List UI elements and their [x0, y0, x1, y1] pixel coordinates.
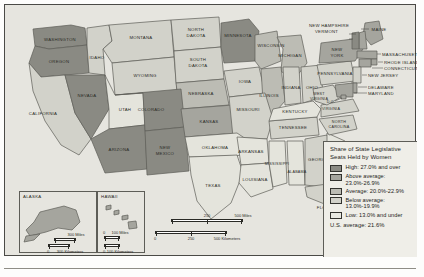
alaska-inset: ALASKA 300 Miles 0 300 Kilometers [19, 191, 97, 253]
legend-swatch-above-average [330, 174, 342, 181]
label-maine: MAINE [372, 27, 387, 32]
legend-row-low[interactable]: Low: 13.0% and under [330, 212, 413, 220]
alaska-scale-km: 0 300 Kilometers [48, 244, 70, 255]
legend-swatch-below-average [330, 197, 342, 204]
legend-us-average: U.S. average: 21.6% [330, 222, 413, 228]
main-scale-miles: 250 500 Miles [171, 213, 243, 222]
alaska-aleutians[interactable] [24, 234, 40, 242]
label-texas: TEXAS [205, 183, 220, 188]
map-legend: Share of State Legislative Seats Held by… [323, 141, 417, 257]
hawaii-km-zero: 0 [103, 249, 105, 254]
legend-swatch-high [330, 165, 342, 172]
legend-label-below-average: Below average: 13.0%-19.9% [346, 197, 414, 210]
alaska-km-zero: 0 [47, 249, 49, 254]
hawaii-scale-km: 0 100 Kilometers [104, 244, 120, 255]
label-colorado: COLORADO [138, 107, 165, 112]
choropleth-map-figure: WASHINGTON OREGON IDAHO MONTANA WYOMING … [0, 0, 424, 277]
main-scale-km: 0 250 500 Kilometers [155, 231, 227, 242]
map-frame: WASHINGTON OREGON IDAHO MONTANA WYOMING … [4, 4, 416, 256]
label-nebraska: NEBRASKA [188, 91, 213, 96]
label-new-york-2: YORK [330, 53, 343, 58]
label-utah: UTAH [119, 107, 131, 112]
label-california: CALIFORNIA [29, 111, 57, 116]
label-maryland: MARYLAND [368, 91, 394, 96]
alaska-scale-miles: 300 Miles [54, 232, 76, 241]
label-west-virginia-2: VIRGINIA [310, 97, 328, 101]
label-missouri: MISSOURI [236, 107, 259, 112]
island-hawaii[interactable] [128, 221, 137, 229]
label-rhode-island: RHODE ISLAND [384, 60, 417, 65]
state-new-jersey[interactable] [353, 67, 361, 83]
label-pennsylvania: PENNSYLVANIA [317, 71, 352, 76]
label-kansas: KANSAS [200, 119, 219, 124]
label-mississippi: MISSISSIPPI [265, 162, 290, 166]
legend-row-above-average[interactable]: Above average: 23.0%-26.9% [330, 173, 413, 186]
figure-bottom-rule [4, 268, 416, 269]
state-connecticut[interactable] [359, 59, 371, 67]
legend-label-above-average: Above average: 23.0%-26.9% [346, 173, 414, 186]
label-massachusetts: MASSACHUSETTS [382, 52, 417, 57]
label-arizona: ARIZONA [109, 147, 130, 152]
label-tennessee: TENNESSEE [279, 125, 307, 130]
label-wisconsin: WISCONSIN [257, 43, 284, 48]
label-alabama: ALABAMA [287, 170, 306, 174]
label-iowa: IOWA [239, 79, 251, 84]
label-ohio: OHIO [306, 85, 318, 90]
label-north-dakota-1: NORTH [188, 27, 204, 32]
label-wyoming: WYOMING [133, 73, 157, 78]
label-illinois: ILLINOIS [259, 93, 279, 98]
label-louisiana: LOUISIANA [242, 177, 267, 182]
label-arkansas: ARKANSAS [238, 149, 263, 154]
label-kentucky: KENTUCKY [282, 109, 307, 114]
alaska-miles-max: 300 Miles [67, 232, 84, 237]
state-massachusetts[interactable] [357, 51, 377, 59]
label-oklahoma: OKLAHOMA [202, 145, 228, 150]
label-nevada: NEVADA [78, 93, 97, 98]
label-vermont: VERMONT [315, 29, 338, 34]
label-new-mexico-2: MEXICO [156, 151, 175, 156]
state-montana[interactable] [103, 20, 174, 63]
state-vermont[interactable] [352, 32, 359, 49]
legend-row-below-average[interactable]: Below average: 13.0%-19.9% [330, 197, 413, 210]
state-dc[interactable] [341, 95, 346, 99]
label-dc: D.C. [327, 100, 335, 104]
label-west-virginia-1: WEST [313, 92, 325, 96]
label-new-hampshire: NEW HAMPSHIRE [309, 23, 349, 28]
label-north-carolina-1: NORTH [332, 120, 346, 124]
legend-label-low: Low: 13.0% and under [346, 212, 403, 219]
label-idaho: IDAHO [90, 55, 105, 60]
hawaii-km-max: 100 Kilometers [107, 249, 134, 254]
island-kauai[interactable] [106, 205, 111, 210]
state-missouri[interactable] [229, 93, 273, 139]
main-miles-max: 500 Miles [234, 213, 251, 218]
label-virginia: VIRGINIA [322, 107, 340, 111]
label-north-dakota-2: DAKOTA [187, 33, 206, 38]
main-km-zero: 0 [154, 236, 156, 241]
label-new-jersey: NEW JERSEY [368, 73, 398, 78]
label-new-york-1: NEW [332, 47, 343, 52]
state-rhode-island[interactable] [371, 59, 377, 65]
state-minnesota[interactable] [221, 19, 259, 63]
legend-title: Share of State Legislative Seats Held by… [330, 146, 413, 161]
label-south-dakota-2: DAKOTA [189, 63, 208, 68]
legend-row-average[interactable]: Average: 20.0%-22.9% [330, 188, 413, 196]
legend-row-high[interactable]: High: 27.0% and over [330, 164, 413, 172]
label-washington: WASHINGTON [44, 37, 76, 42]
island-oahu[interactable] [114, 210, 119, 215]
hawaii-scale-miles: 0 100 Miles [104, 230, 120, 239]
label-delaware: DELAWARE [368, 85, 394, 90]
label-north-carolina-2: CAROLINA [329, 125, 350, 129]
main-km-mid: 250 [188, 236, 195, 241]
main-km-max: 500 Kilometers [214, 236, 241, 241]
main-miles-mid: 250 [204, 213, 211, 218]
hawaii-inset: HAWAII 0 100 Miles 0 [97, 191, 145, 253]
label-montana: MONTANA [130, 35, 153, 40]
label-michigan: MICHIGAN [278, 53, 302, 58]
label-indiana: INDIANA [281, 85, 300, 90]
legend-label-average: Average: 20.0%-22.9% [346, 188, 404, 195]
alaska-km-max: 300 Kilometers [57, 249, 84, 254]
hawaii-miles-max: 100 Miles [111, 230, 128, 235]
state-alabama[interactable] [287, 141, 305, 185]
legend-swatch-low [330, 212, 342, 219]
island-maui[interactable] [122, 215, 128, 220]
